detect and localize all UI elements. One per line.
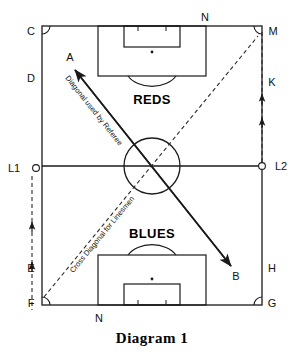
label-c: C <box>27 25 35 37</box>
label-b: B <box>232 270 239 282</box>
label-g: G <box>268 297 277 309</box>
label-d: D <box>27 72 35 84</box>
penalty-spot-bottom <box>151 278 154 281</box>
label-k: K <box>268 76 276 88</box>
label-f: F <box>28 297 35 309</box>
label-a: A <box>66 51 74 63</box>
label-n-bottom: N <box>95 312 103 324</box>
team-label-reds: REDS <box>133 92 171 107</box>
label-l2: L2 <box>275 160 287 172</box>
label-l1: L1 <box>8 162 20 174</box>
figure-caption: Diagram 1 <box>0 330 304 347</box>
label-h: H <box>268 262 276 274</box>
label-m: M <box>268 25 277 37</box>
label-n-top: N <box>201 11 209 23</box>
diagram-background <box>0 0 304 363</box>
penalty-spot-top <box>151 51 154 54</box>
team-label-blues: BLUES <box>129 226 175 241</box>
linesman-2-marker <box>259 163 266 170</box>
diagram-figure: C D E F G H K M N N L1 L2 A B REDS BLUES… <box>0 0 304 363</box>
pitch-svg: C D E F G H K M N N L1 L2 A B REDS BLUES… <box>0 0 304 363</box>
linesman-1-marker <box>33 165 40 172</box>
label-e: E <box>27 262 34 274</box>
